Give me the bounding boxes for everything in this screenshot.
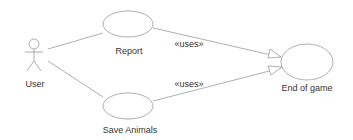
use-case-report[interactable]	[103, 11, 153, 37]
relation-label-uses-save-animals: «uses»	[174, 80, 203, 89]
uses-report-end-of-game	[153, 28, 280, 57]
relation-label-uses-report: «uses»	[174, 40, 203, 49]
use-case-diagram: User Report Save Animals End of game «us…	[0, 0, 353, 140]
arrowhead-icon	[268, 66, 282, 75]
use-case-label-end-of-game: End of game	[281, 84, 332, 93]
use-case-label-report: Report	[115, 47, 142, 56]
diagram-graphics	[0, 0, 353, 140]
actor-label-user: User	[25, 80, 44, 89]
association-user-report	[48, 33, 103, 49]
use-case-save-animals[interactable]	[103, 93, 153, 119]
arrowhead-icon	[268, 49, 281, 58]
use-case-end-of-game[interactable]	[281, 44, 333, 80]
actor-user-icon	[25, 39, 43, 71]
use-case-label-save-animals: Save Animals	[103, 126, 158, 135]
association-user-save-animals	[48, 61, 103, 97]
uses-save-animals-end-of-game	[153, 68, 281, 101]
